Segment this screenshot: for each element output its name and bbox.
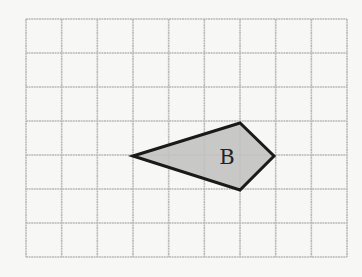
shape-label: B <box>219 145 234 169</box>
kite-shape-b <box>133 123 274 190</box>
diagram-canvas: B <box>0 0 362 277</box>
grid-diagram: B <box>0 0 362 277</box>
